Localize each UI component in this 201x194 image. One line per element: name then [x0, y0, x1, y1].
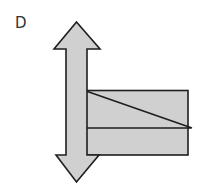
rectangle-group	[86, 91, 192, 156]
rectangle	[86, 91, 188, 156]
diagram	[0, 0, 201, 194]
